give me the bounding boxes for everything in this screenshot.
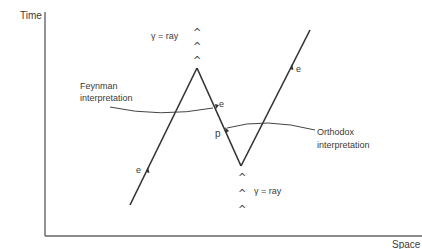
feynman-leader-curve: [110, 107, 213, 113]
feynman-label-line1: Feynman: [80, 81, 118, 91]
photon-caret-bottom-2: ^: [238, 188, 246, 199]
photon-caret-bottom-3: ^: [238, 204, 246, 215]
feynman-diagram: Time Space e e p e ^ ^ ^ γ = ray ^ ^ ^ γ…: [0, 0, 422, 249]
photon-caret-top-3: ^: [193, 55, 201, 66]
space-axis-label: Space: [392, 239, 421, 249]
orthodox-leader-curve: [227, 123, 315, 130]
photon-bottom-label: γ = ray: [254, 186, 282, 196]
positron-label: p: [215, 128, 221, 139]
orthodox-label-line1: Orthodox: [317, 127, 355, 137]
feynman-label-line2: interpretation: [80, 93, 133, 103]
time-axis-label: Time: [20, 10, 42, 21]
electron-incoming-line: [130, 68, 197, 205]
electron-out-label: e: [296, 64, 301, 74]
photon-caret-bottom-1: ^: [238, 172, 246, 183]
orthodox-label-line2: interpretation: [317, 140, 370, 150]
photon-top-label: γ = ray: [151, 31, 179, 41]
photon-caret-top-2: ^: [193, 41, 201, 52]
electron-in-label: e: [136, 165, 141, 175]
electron-outgoing-line: [241, 30, 310, 166]
electron-mid-line: [197, 68, 241, 166]
photon-caret-top-1: ^: [193, 27, 201, 38]
electron-mid-label: e: [219, 99, 224, 109]
